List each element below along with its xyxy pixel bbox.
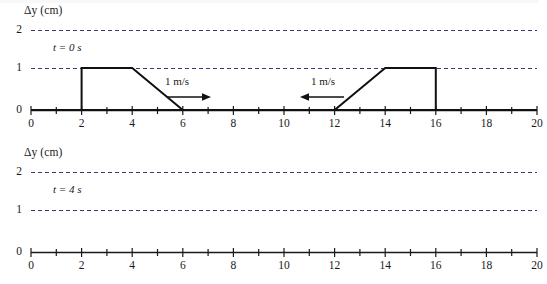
x-tick-8: 8 <box>222 117 244 129</box>
x-tick-16: 16 <box>425 117 447 129</box>
y-tick-2: 2 <box>8 165 22 177</box>
x-tick-8: 8 <box>222 259 244 271</box>
plot-panel-t4: Δy (cm) t = 4 s 2 1 0 0 2 4 6 8 10 12 14… <box>0 142 539 284</box>
y-tick-0: 0 <box>8 103 22 115</box>
pulse-left-waveform <box>31 68 537 110</box>
x-tick-4: 4 <box>121 259 143 271</box>
y-tick-2: 2 <box>8 23 22 35</box>
x-tick-10: 10 <box>273 259 295 271</box>
speed-label-left: 1 m/s <box>165 75 189 87</box>
speed-label-right: 1 m/s <box>311 75 335 87</box>
x-tick-14: 14 <box>374 259 396 271</box>
time-label-t0: t = 0 s <box>53 41 82 53</box>
x-tick-14: 14 <box>374 117 396 129</box>
x-tick-16: 16 <box>425 259 447 271</box>
y-tick-1: 1 <box>8 203 22 215</box>
x-tick-4: 4 <box>121 117 143 129</box>
x-tick-18: 18 <box>475 117 497 129</box>
y-axis-title: Δy (cm) <box>24 4 62 16</box>
x-tick-0: 0 <box>20 259 42 271</box>
x-tick-6: 6 <box>172 259 194 271</box>
x-tick-6: 6 <box>172 117 194 129</box>
x-axis-ticks <box>31 248 537 257</box>
x-tick-12: 12 <box>324 117 346 129</box>
x-tick-20: 20 <box>526 117 547 129</box>
y-tick-1: 1 <box>8 61 22 73</box>
plot-panel-t0: Δy (cm) t = 0 s 1 m/s 1 m/s 2 1 0 0 2 4 … <box>0 0 539 142</box>
x-tick-0: 0 <box>20 117 42 129</box>
pulse-right-waveform <box>31 68 537 110</box>
velocity-arrow-left <box>300 93 344 101</box>
x-tick-2: 2 <box>71 259 93 271</box>
velocity-arrow-right <box>167 93 211 101</box>
time-label-t4: t = 4 s <box>53 183 82 195</box>
x-tick-12: 12 <box>324 259 346 271</box>
y-tick-0: 0 <box>8 245 22 257</box>
x-tick-10: 10 <box>273 117 295 129</box>
x-tick-2: 2 <box>71 117 93 129</box>
x-tick-20: 20 <box>526 259 547 271</box>
y-axis-title: Δy (cm) <box>24 146 62 158</box>
x-tick-18: 18 <box>475 259 497 271</box>
